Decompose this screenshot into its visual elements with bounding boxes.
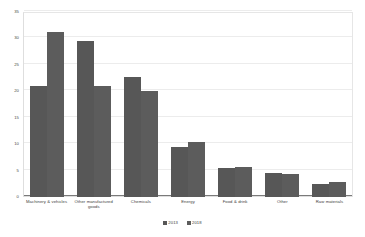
bar [265,173,282,197]
bar-group [70,12,117,197]
bar [124,77,141,198]
y-tick-label: 20 [14,89,19,93]
x-axis-labels: Machinery & vehiclesOther manufactured g… [23,199,353,215]
bar-group [117,12,164,197]
bar [77,41,94,197]
gridline-35 [24,10,352,11]
bar [235,167,252,197]
x-tick-label: Other manufactured goods [70,199,117,209]
y-tick-label: 0 [17,195,19,199]
legend-swatch-icon [163,221,167,225]
bar-chart: 05101520253035 Machinery & vehiclesOther… [0,0,365,237]
x-tick-label: Machinery & vehicles [23,199,70,204]
y-tick-label: 15 [14,116,19,120]
legend-label: 2013 [168,221,178,225]
bars-layer [23,12,353,197]
bar-group [212,12,259,197]
bar [141,91,158,197]
bar [171,147,188,197]
legend-item[interactable]: 2013 [163,221,178,225]
y-tick-label: 10 [14,142,19,146]
chart-legend: 20132018 [0,221,365,225]
x-tick-label: Energy [164,199,211,204]
bar-group [306,12,353,197]
bar [218,168,235,197]
x-tick-label: Other [259,199,306,204]
bar [47,32,64,197]
y-tick-label: 30 [14,36,19,40]
bar [30,86,47,197]
bar [312,184,329,197]
y-tick-label: 5 [17,168,19,172]
x-tick-label: Chemicals [117,199,164,204]
y-tick-label: 35 [14,10,19,14]
bar [329,182,346,197]
bar-group [259,12,306,197]
legend-label: 2018 [192,221,202,225]
y-tick-label: 25 [14,63,19,67]
bar-group [164,12,211,197]
y-axis-labels: 05101520253035 [0,12,22,197]
legend-item[interactable]: 2018 [187,221,202,225]
bar-group [23,12,70,197]
x-tick-label: Food & drink [212,199,259,204]
x-tick-label: Raw materials [306,199,353,204]
bar [94,86,111,197]
bar [282,174,299,197]
bar [188,142,205,197]
legend-swatch-icon [187,221,191,225]
